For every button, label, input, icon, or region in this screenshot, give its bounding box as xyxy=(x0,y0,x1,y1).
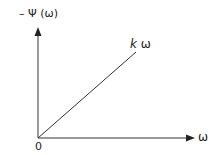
y-axis xyxy=(35,27,42,138)
x-axis xyxy=(38,135,195,142)
k-omega-line xyxy=(38,52,136,138)
y-axis-arrow-icon xyxy=(35,27,42,36)
line-label: k ω xyxy=(130,38,151,50)
line-label-k: k xyxy=(130,37,137,51)
y-axis-label: – Ψ (ω) xyxy=(19,8,58,20)
x-axis-arrow-icon xyxy=(186,135,195,142)
diagram-canvas xyxy=(0,0,218,155)
origin-label: 0 xyxy=(35,141,42,153)
x-axis-label: ω xyxy=(198,131,208,143)
line-label-omega: ω xyxy=(141,37,151,51)
